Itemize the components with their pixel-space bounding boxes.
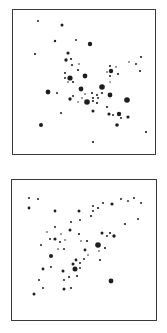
scatter-dot (76, 275, 78, 277)
scatter-dot (37, 20, 39, 22)
scatter-dot (92, 141, 94, 143)
scatter-dot (79, 219, 81, 221)
scatter-dot (54, 210, 57, 213)
scatter-dot (96, 102, 98, 104)
scatter-dot (63, 279, 65, 281)
scatter-dot (96, 94, 98, 96)
scatter-dot (50, 266, 52, 268)
scatter-dot (84, 99, 90, 105)
scatter-dot (102, 202, 104, 204)
scatter-dot (88, 42, 92, 46)
scatter-dot (126, 115, 129, 118)
scatter-dot (92, 205, 94, 207)
scatter-dot (107, 112, 110, 115)
scatter-dot (92, 100, 94, 102)
scatter-dot (87, 254, 89, 256)
scatter-dot (37, 198, 39, 200)
scatter-dot (70, 221, 72, 223)
scatter-dot (70, 287, 72, 289)
scatter-dot (67, 75, 72, 80)
scatter-dot (101, 232, 104, 235)
scatter-dot (127, 200, 129, 202)
scatter-dot (77, 101, 78, 102)
scatter-dot (78, 63, 80, 65)
scatter-dot (49, 238, 51, 240)
scatter-dot (99, 84, 105, 90)
scatter-dot (98, 250, 100, 252)
scatter-dot (46, 231, 48, 233)
scatter-dot (128, 61, 130, 63)
bottom-dots (28, 197, 142, 296)
scatter-dot (79, 262, 81, 264)
scatter-dot (101, 92, 103, 94)
scatter-dot (86, 240, 88, 242)
scatter-dot (54, 40, 56, 42)
scatter-dot (60, 233, 62, 235)
scatter-dot (97, 207, 99, 209)
scatter-dot (95, 242, 101, 248)
scatter-dot (46, 90, 51, 95)
scatter-dot (28, 197, 30, 199)
scatter-dot (92, 110, 95, 113)
scatter-dot (104, 247, 106, 249)
scatter-dot (64, 58, 67, 61)
scatter-dot (135, 63, 137, 65)
scatter-dot (73, 267, 78, 272)
scatter-dot (66, 51, 69, 54)
scatter-dot (106, 71, 108, 73)
scatter-dot (106, 106, 108, 108)
scatter-dot (54, 226, 56, 228)
scatter-dot (109, 279, 114, 284)
scatter-dot (145, 131, 147, 133)
scatter-dot (49, 254, 53, 258)
scatter-dot (33, 293, 36, 296)
scatter-dot (42, 268, 45, 271)
scatter-dot (92, 97, 94, 99)
top-dots (34, 20, 147, 143)
scatter-dot (61, 24, 64, 27)
scatter-dot (79, 267, 81, 269)
scatter-dot (124, 223, 126, 225)
scatter-dot (67, 81, 69, 83)
scatter-dot (72, 263, 75, 266)
scatter-dot (64, 77, 66, 79)
scatter-dot (84, 249, 87, 252)
scatter-dot (83, 258, 85, 260)
scatter-dot (109, 81, 110, 82)
scatter-dot (64, 239, 66, 241)
scatter-dot (40, 244, 42, 246)
scatter-dot (112, 114, 114, 116)
scatter-dot (117, 73, 119, 75)
scatter-dot (72, 81, 74, 83)
scatter-dot (62, 270, 65, 273)
scatter-dot (120, 198, 122, 200)
scatter-dot (53, 237, 56, 240)
scatter-dot (109, 69, 113, 73)
scatter-dot (63, 288, 66, 291)
scatter-dot (110, 202, 113, 205)
scatter-dot (60, 112, 62, 114)
scatter-dot (108, 93, 113, 98)
scatter-dot (75, 39, 77, 41)
scatter-dot (78, 233, 80, 235)
scatter-dot (71, 64, 73, 66)
scatter-dots-layer (0, 0, 167, 333)
scatter-dot (81, 97, 83, 99)
scatter-dot (68, 276, 70, 278)
scatter-dot (91, 92, 93, 94)
scatter-dot (70, 58, 72, 60)
scatter-dot (92, 210, 94, 212)
scatter-dot (133, 197, 135, 199)
scatter-dot (63, 248, 65, 250)
scatter-dot (83, 74, 88, 79)
scatter-dot (79, 87, 84, 92)
scatter-dot (140, 202, 142, 204)
scatter-dot (115, 66, 117, 68)
scatter-dot (109, 75, 111, 77)
scatter-dot (28, 207, 31, 210)
scatter-dot (106, 235, 108, 237)
scatter-dot (90, 215, 92, 217)
scatter-dot (124, 97, 130, 103)
scatter-dot (77, 69, 79, 71)
scatter-dot (56, 92, 58, 94)
